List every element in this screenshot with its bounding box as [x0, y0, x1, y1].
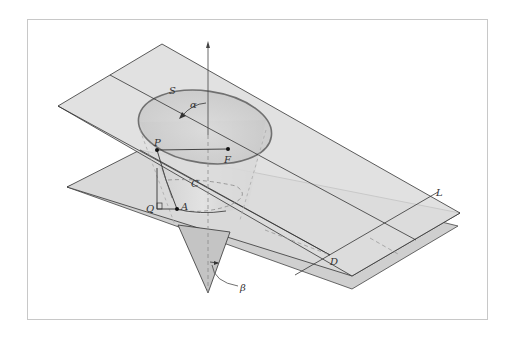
label-a: A: [180, 201, 188, 212]
label-alpha: α: [190, 99, 197, 110]
label-beta: β: [239, 282, 246, 293]
label-s: S: [169, 85, 176, 96]
label-p: P: [153, 137, 161, 148]
label-c: C: [191, 178, 199, 189]
cone-section-diagram: S α P F C Q A L D β: [0, 0, 515, 337]
label-l: L: [435, 187, 443, 198]
label-f: F: [223, 154, 232, 165]
label-d: D: [329, 256, 338, 267]
lower-cone: [178, 225, 230, 293]
axis-arrowhead: [206, 41, 210, 48]
point-p: [155, 148, 159, 152]
label-q: Q: [146, 203, 154, 214]
point-a: [175, 207, 179, 211]
point-f: [226, 147, 230, 151]
